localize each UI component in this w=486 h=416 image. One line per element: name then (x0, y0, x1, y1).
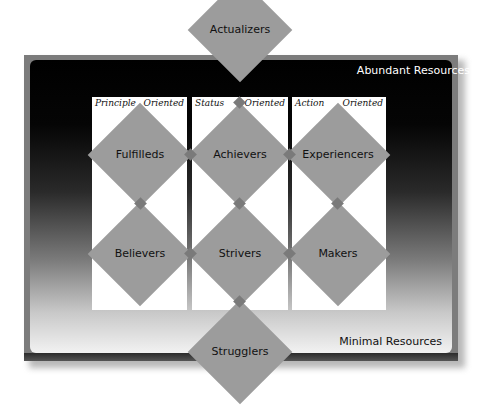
column-head-right: Oriented (245, 98, 285, 108)
segment-label-experiencers: Experiencers (278, 148, 398, 161)
column-head-left: Status (195, 98, 224, 108)
column-head-left: Principle (95, 98, 136, 108)
segment-label-strugglers: Strugglers (180, 345, 300, 358)
column-head-left: Action (295, 98, 324, 108)
abundant-resources-label: Abundant Resources (357, 64, 470, 77)
segment-label-makers: Makers (278, 247, 398, 260)
column-head-right: Oriented (144, 98, 184, 108)
column-head-right: Oriented (343, 98, 383, 108)
segment-label-actualizers: Actualizers (180, 23, 300, 36)
minimal-resources-label: Minimal Resources (339, 335, 442, 348)
